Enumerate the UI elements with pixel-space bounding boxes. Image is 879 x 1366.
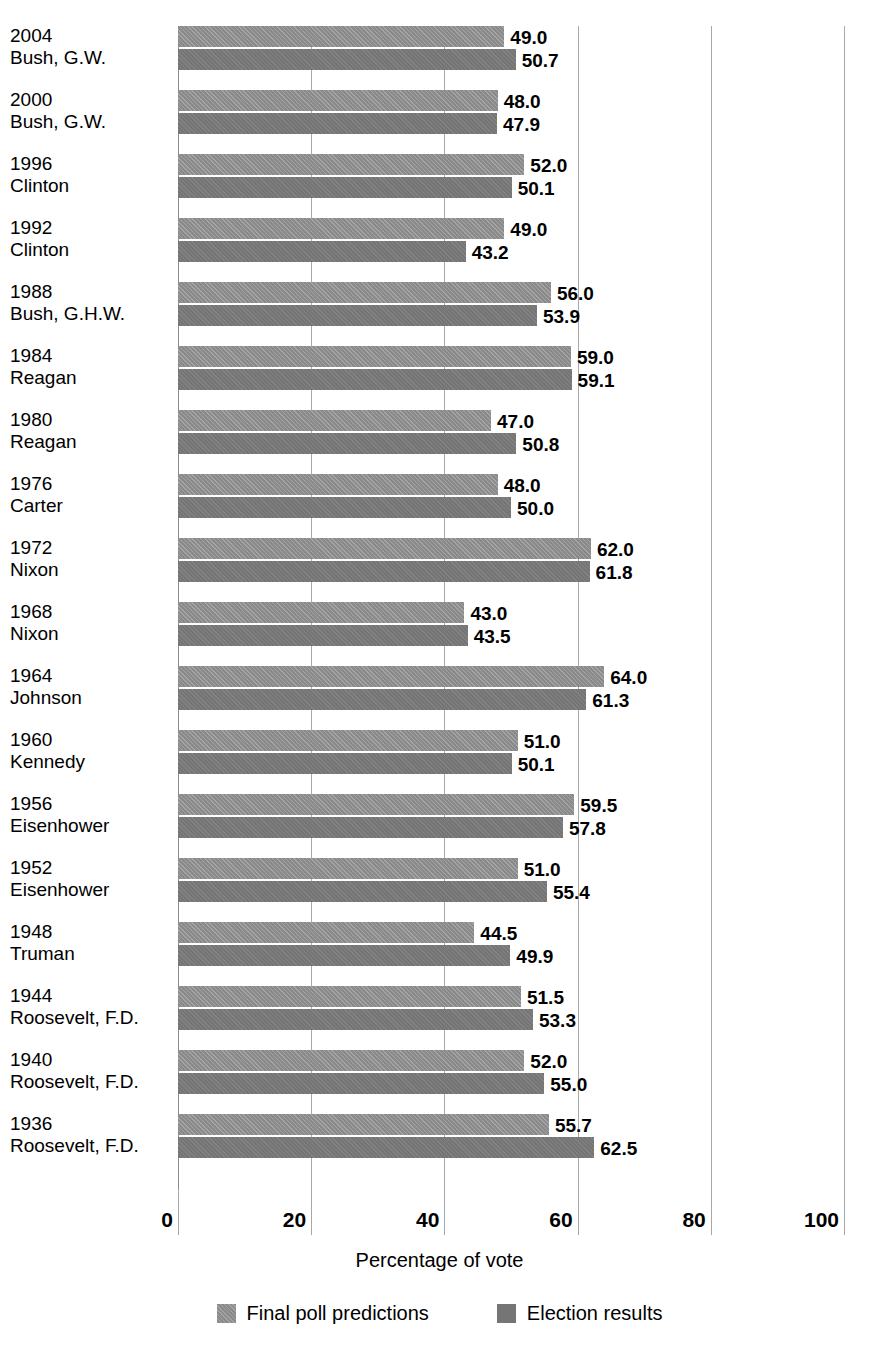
bar-predicted[interactable] [178, 218, 504, 239]
category-year: 1992 [10, 217, 170, 239]
bar-result[interactable] [178, 113, 497, 134]
bar-row-predicted: 52.0 [178, 1050, 844, 1071]
bar-predicted[interactable] [178, 474, 498, 495]
bar-predicted[interactable] [178, 1050, 524, 1071]
category-candidate: Reagan [10, 431, 170, 453]
bar-value-label: 47.9 [503, 114, 540, 133]
tick-label-20: 20 [283, 1209, 311, 1230]
bar-result[interactable] [178, 1073, 544, 1094]
bar-value-label: 50.1 [518, 178, 555, 197]
bar-row-predicted: 64.0 [178, 666, 844, 687]
bar-row-predicted: 51.0 [178, 858, 844, 879]
bar-predicted[interactable] [178, 154, 524, 175]
bar-result[interactable] [178, 945, 510, 966]
bar-result[interactable] [178, 561, 590, 582]
bar-result[interactable] [178, 433, 516, 454]
category-label: 1964Johnson [10, 665, 178, 709]
bar-row-result: 49.9 [178, 945, 844, 966]
bar-value-label: 57.8 [569, 818, 606, 837]
bar-chart: 2004Bush, G.W.2000Bush, G.W.1996Clinton1… [0, 0, 879, 1366]
bar-row-result: 62.5 [178, 1137, 844, 1158]
bar-value-label: 48.0 [504, 475, 541, 494]
bar-value-label: 61.8 [596, 562, 633, 581]
bar-result[interactable] [178, 625, 468, 646]
category-label: 1960Kennedy [10, 729, 178, 773]
bar-predicted[interactable] [178, 346, 571, 367]
category-candidate: Bush, G.H.W. [10, 303, 170, 325]
bar-predicted[interactable] [178, 730, 518, 751]
bar-result[interactable] [178, 817, 563, 838]
gridline-100 [844, 26, 845, 1189]
category-candidate: Truman [10, 943, 170, 965]
bar-value-label: 50.0 [517, 498, 554, 517]
bar-predicted[interactable] [178, 538, 591, 559]
bar-predicted[interactable] [178, 1114, 549, 1135]
bar-predicted[interactable] [178, 602, 464, 623]
bar-predicted[interactable] [178, 282, 551, 303]
bar-result[interactable] [178, 49, 516, 70]
bar-predicted[interactable] [178, 666, 604, 687]
bar-group: 49.050.7 [178, 26, 844, 72]
bar-value-label: 55.4 [553, 882, 590, 901]
category-label: 1992Clinton [10, 217, 178, 261]
bar-row-predicted: 49.0 [178, 218, 844, 239]
bar-result[interactable] [178, 753, 512, 774]
category-candidate: Eisenhower [10, 879, 170, 901]
bar-row-predicted: 43.0 [178, 602, 844, 623]
tick-mark-80 [711, 1189, 712, 1235]
bar-predicted[interactable] [178, 90, 498, 111]
bar-value-label: 50.1 [518, 754, 555, 773]
bar-value-label: 50.7 [522, 50, 559, 69]
bar-row-predicted: 51.5 [178, 986, 844, 1007]
tick-mark-60 [578, 1189, 579, 1235]
bar-value-label: 62.0 [597, 539, 634, 558]
category-label: 1956Eisenhower [10, 793, 178, 837]
bar-row-result: 50.8 [178, 433, 844, 454]
category-year: 1940 [10, 1049, 170, 1071]
category-label: 2000Bush, G.W. [10, 89, 178, 133]
bar-predicted[interactable] [178, 794, 574, 815]
bar-row-result: 53.3 [178, 1009, 844, 1030]
bar-result[interactable] [178, 241, 466, 262]
tick-label-60: 60 [549, 1209, 577, 1230]
tick-label-40: 40 [416, 1209, 444, 1230]
bar-row-result: 57.8 [178, 817, 844, 838]
bar-result[interactable] [178, 689, 586, 710]
bar-result[interactable] [178, 1009, 533, 1030]
x-axis: 020406080100 [178, 1189, 844, 1235]
category-candidate: Carter [10, 495, 170, 517]
category-year: 1964 [10, 665, 170, 687]
bar-predicted[interactable] [178, 26, 504, 47]
chart-legend: Final poll predictionsElection results [0, 1303, 879, 1323]
bar-row-result: 55.0 [178, 1073, 844, 1094]
bar-group: 59.059.1 [178, 346, 844, 392]
bar-row-predicted: 48.0 [178, 90, 844, 111]
category-candidate: Roosevelt, F.D. [10, 1007, 170, 1029]
bar-predicted[interactable] [178, 858, 518, 879]
bar-value-label: 43.0 [470, 603, 507, 622]
bar-predicted[interactable] [178, 922, 474, 943]
bar-value-label: 55.7 [555, 1115, 592, 1134]
bar-row-predicted: 51.0 [178, 730, 844, 751]
bar-result[interactable] [178, 1137, 594, 1158]
legend-item[interactable]: Final poll predictions [217, 1303, 429, 1323]
bar-group: 49.043.2 [178, 218, 844, 264]
bar-predicted[interactable] [178, 986, 521, 1007]
category-label: 1968Nixon [10, 601, 178, 645]
bar-result[interactable] [178, 497, 511, 518]
bar-row-predicted: 52.0 [178, 154, 844, 175]
bar-result[interactable] [178, 177, 512, 198]
category-year: 1996 [10, 153, 170, 175]
bar-group: 48.050.0 [178, 474, 844, 520]
bar-predicted[interactable] [178, 410, 491, 431]
bar-group: 51.050.1 [178, 730, 844, 776]
bar-row-result: 55.4 [178, 881, 844, 902]
category-year: 1976 [10, 473, 170, 495]
tick-mark-20 [311, 1189, 312, 1235]
bar-result[interactable] [178, 881, 547, 902]
legend-item[interactable]: Election results [497, 1303, 663, 1323]
bar-value-label: 43.2 [472, 242, 509, 261]
bar-result[interactable] [178, 305, 537, 326]
bar-result[interactable] [178, 369, 572, 390]
bar-value-label: 53.9 [543, 306, 580, 325]
